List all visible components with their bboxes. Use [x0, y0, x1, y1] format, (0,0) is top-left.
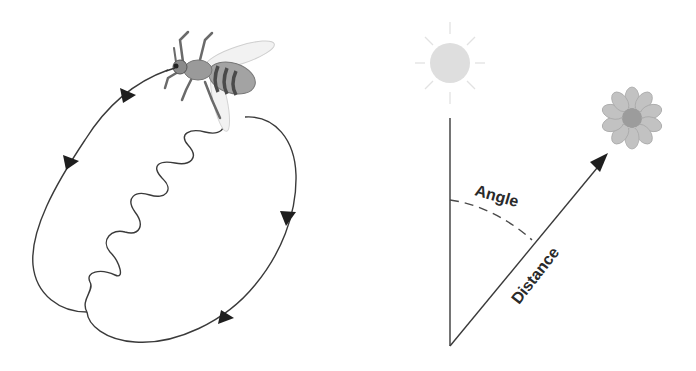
arrow-icon: [280, 211, 296, 226]
left-return-loop: [33, 70, 168, 312]
distance-label: Distance: [508, 244, 563, 307]
arrow-icon: [120, 88, 136, 103]
direction-panel: Angle Distance: [415, 22, 664, 346]
angle-label: Angle: [473, 182, 521, 211]
arrow-icon: [63, 155, 79, 170]
flower-icon: [600, 87, 663, 149]
distance-arrow: [450, 162, 602, 346]
waggle-run: [85, 118, 224, 312]
waggle-dance-panel: [33, 32, 296, 342]
diagram-canvas: Angle Distance: [0, 0, 696, 371]
sun-icon: [415, 22, 485, 104]
angle-arc: [450, 200, 532, 240]
arrowhead-icon: [590, 153, 608, 172]
